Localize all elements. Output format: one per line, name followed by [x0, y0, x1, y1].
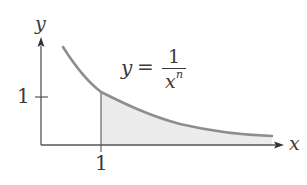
equation-denominator-exponent: n: [176, 69, 183, 80]
power-function-diagram: [0, 0, 307, 185]
x-axis-label: x: [289, 134, 300, 153]
equation-equals: =: [137, 57, 154, 77]
y-tick-label: 1: [17, 86, 30, 106]
equation-lhs: y: [121, 58, 132, 78]
y-axis-label: y: [35, 14, 46, 33]
y-axis-arrow-icon: [38, 37, 45, 47]
shaded-area: [101, 92, 272, 145]
equation-numerator: 1: [163, 45, 185, 67]
x-tick-label: 1: [95, 153, 108, 173]
equation-denominator-base: x: [165, 72, 176, 91]
